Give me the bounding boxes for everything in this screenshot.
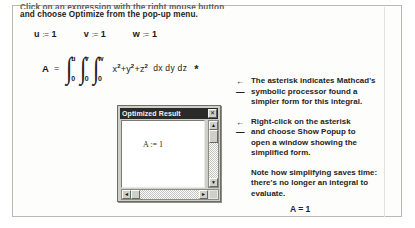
horizontal-scrollbar[interactable]: ◄ ► <box>121 189 219 200</box>
annotation-line: symbolic processor found a <box>251 87 358 96</box>
vertical-scroll-thumb[interactable] <box>209 130 218 143</box>
annotation-column: ←— The asterisk indicates Mathcad's symb… <box>236 76 386 208</box>
resize-grip-icon[interactable] <box>209 190 218 199</box>
variable-value-w: 1 <box>152 29 157 39</box>
definition-v[interactable]: v := 1 <box>84 29 106 39</box>
annotation-simplify-note: Note how simplifying saves time: there's… <box>236 168 386 200</box>
annotation-line: there's no longer an integral to <box>251 178 368 187</box>
window-title: Optimized Result <box>122 110 181 117</box>
integral-sign-2: ∫ v 0 <box>79 53 89 83</box>
horizontal-scroll-thumb[interactable] <box>131 190 140 199</box>
annotation-line: Right-click on the asterisk <box>251 117 351 126</box>
annotation-simplify-text: Note how simplifying saves time: there's… <box>251 168 377 200</box>
integrand-term-1: x2 <box>112 64 120 74</box>
variable-name-v: v <box>84 29 89 39</box>
intro-line-1: Click on an expression with the right mo… <box>20 2 235 9</box>
window-titlebar[interactable]: Optimized Result ✕ <box>120 108 218 119</box>
integral-glyph: ∫ <box>80 53 86 83</box>
annotation-line: Note how simplifying saves time: <box>251 168 377 177</box>
final-result: A = 1 <box>290 204 310 214</box>
integral-glyph: ∫ <box>66 53 72 83</box>
integral-glyph: ∫ <box>93 53 99 83</box>
annotation-line: simplified form. <box>251 148 311 157</box>
variable-value-u: 1 <box>52 29 57 39</box>
result-canvas[interactable]: A := 1 <box>121 120 205 188</box>
variable-value-v: 1 <box>101 29 106 39</box>
variable-name-u: u <box>34 29 40 39</box>
vertical-scroll-track[interactable] <box>209 143 218 178</box>
expression-equals: = <box>54 63 59 73</box>
horizontal-scroll-track[interactable] <box>140 190 199 199</box>
integral-expression[interactable]: A = ∫ u 0 ∫ v 0 ∫ w 0 x2+y2+z2 dx <box>42 53 235 83</box>
scroll-left-icon[interactable]: ◄ <box>122 190 131 199</box>
annotation-line: open a window showing the <box>251 138 357 147</box>
assign-operator-u: := <box>43 30 49 39</box>
annotation-line: evaluate. <box>251 189 285 198</box>
annotation-line: simpler form for this integral. <box>251 97 362 106</box>
annotation-show-popup-text: Right-click on the asterisk and choose S… <box>251 117 357 159</box>
integrand-term-3: z2 <box>140 64 148 74</box>
integral-sign-1: ∫ u 0 <box>65 53 76 83</box>
intro-line-2: and choose Optimize from the pop-up menu… <box>20 9 235 20</box>
annotation-asterisk-text: The asterisk indicates Mathcad's symboli… <box>251 76 376 108</box>
definition-w[interactable]: w := 1 <box>133 29 157 39</box>
expression-lhs: A <box>42 63 49 74</box>
integrand: x2+y2+z2 <box>112 63 148 74</box>
annotation-asterisk: ←— The asterisk indicates Mathcad's symb… <box>236 76 386 108</box>
close-icon[interactable]: ✕ <box>208 109 217 118</box>
annotation-line: and choose Show Popup to <box>251 127 356 136</box>
annotation-line: The asterisk indicates Mathcad's <box>251 76 376 85</box>
arrow-left-icon: ←— <box>236 76 251 108</box>
annotation-show-popup: ←— Right-click on the asterisk and choos… <box>236 117 386 159</box>
variable-definitions: u := 1 v := 1 w := 1 <box>34 29 235 39</box>
scroll-down-icon[interactable]: ▼ <box>209 178 218 187</box>
arrow-left-icon: ←— <box>236 117 251 159</box>
window-body: A := 1 ▲ ▼ ◄ ► <box>121 120 219 200</box>
assign-operator-v: := <box>92 30 98 39</box>
variable-name-w: w <box>133 29 140 39</box>
differentials: dx dy dz <box>153 63 187 73</box>
optimized-result-window[interactable]: Optimized Result ✕ A := 1 ▲ ▼ ◄ ► <box>117 105 221 202</box>
optimize-asterisk-marker[interactable]: * <box>194 64 198 75</box>
optimized-result-expression: A := 1 <box>143 140 163 149</box>
definition-u[interactable]: u := 1 <box>34 29 57 39</box>
integral-sign-3: ∫ w 0 <box>92 53 104 83</box>
assign-operator-w: := <box>143 30 149 39</box>
scroll-up-icon[interactable]: ▲ <box>209 121 218 130</box>
vertical-scrollbar[interactable]: ▲ ▼ <box>208 120 219 188</box>
mathcad-worksheet: Click on an expression with the right mo… <box>20 2 235 83</box>
scroll-right-icon[interactable]: ► <box>199 190 208 199</box>
